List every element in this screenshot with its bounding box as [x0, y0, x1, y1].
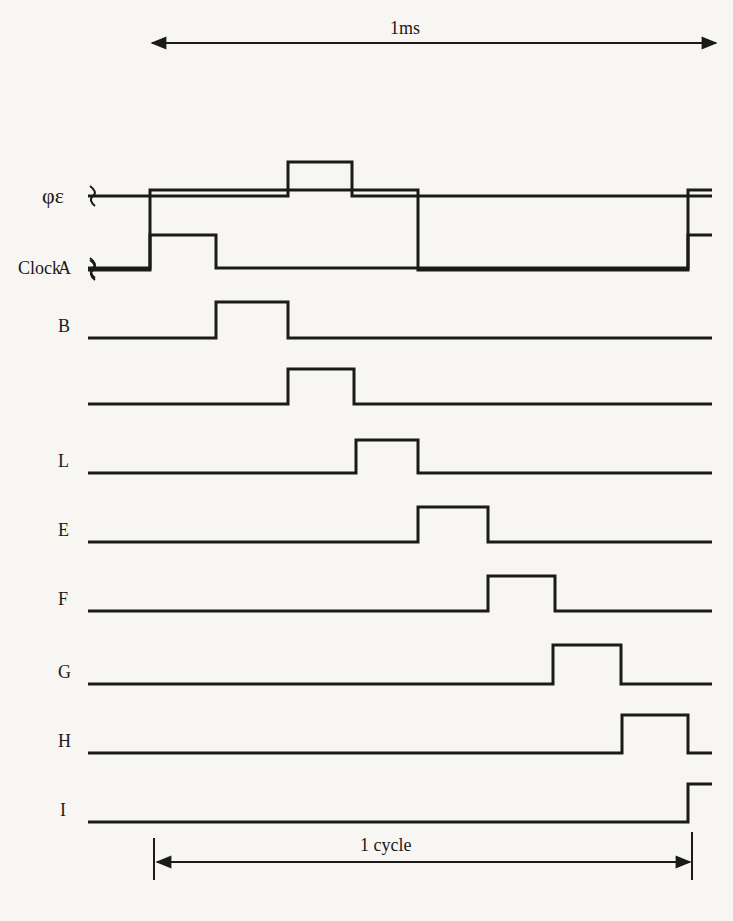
- signal-label-clock: Clock: [18, 258, 61, 278]
- signal-label-b: B: [58, 316, 70, 336]
- signal-b-waveform: [88, 302, 712, 338]
- signal-a-waveform: [88, 235, 712, 278]
- signal-label-phi-e: φε: [42, 186, 64, 206]
- signal-h-waveform: [88, 715, 712, 753]
- timing-diagram: [0, 0, 733, 921]
- period-label: 1ms: [390, 18, 420, 38]
- cycle-label: 1 cycle: [360, 835, 411, 855]
- signal-label-g: G: [58, 662, 71, 682]
- signal-label-a: A: [58, 258, 71, 278]
- signal-f-waveform: [88, 576, 712, 611]
- signal-label-i: I: [60, 800, 66, 820]
- signal-l-waveform: [88, 440, 712, 473]
- waveforms: [88, 162, 712, 822]
- signal-g-waveform: [88, 645, 712, 684]
- signal-label-h: H: [58, 731, 71, 751]
- signal-phi-e-waveform: [88, 162, 712, 206]
- signal-label-l: L: [58, 451, 69, 471]
- signal-label-e: E: [58, 520, 69, 540]
- signal-i-waveform: [88, 784, 712, 822]
- signal-unlabeled-waveform: [88, 369, 712, 404]
- signal-label-f: F: [58, 589, 68, 609]
- signal-e-waveform: [88, 507, 712, 542]
